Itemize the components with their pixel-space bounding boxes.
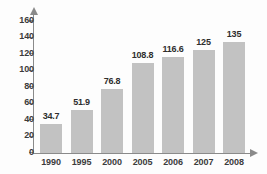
y-axis-tick-label: 80 (0, 81, 34, 91)
bar-value-label: 51.9 (62, 97, 102, 107)
bar-value-label: 76.8 (92, 76, 132, 86)
plot-area: 020406080100120140160 199019952000200520… (0, 0, 267, 174)
x-axis-tick-label: 1990 (34, 157, 68, 167)
y-axis-tick-label: 100 (0, 64, 34, 74)
y-axis-tick-label: 60 (0, 97, 34, 107)
y-axis-tick-label: 120 (0, 48, 34, 58)
y-axis-tick-label: 140 (0, 31, 34, 41)
bar (162, 57, 184, 153)
x-axis-tick-label: 2008 (217, 157, 251, 167)
bar (71, 110, 93, 153)
bar-value-label: 34.7 (31, 111, 71, 121)
x-axis-tick-label: 1995 (65, 157, 99, 167)
y-axis-arrow-icon (30, 7, 38, 15)
x-axis-tick-label: 2005 (126, 157, 160, 167)
y-axis-tick-label: 20 (0, 130, 34, 140)
bar-chart: 020406080100120140160 199019952000200520… (0, 0, 267, 174)
bar-value-label: 135 (214, 29, 254, 39)
y-axis-tick-label: 40 (0, 114, 34, 124)
x-axis-arrow-icon (250, 149, 258, 157)
bar (101, 89, 123, 152)
bar (223, 42, 245, 153)
bar (132, 63, 154, 152)
x-axis-line (33, 153, 251, 154)
y-axis-tick-label: 0 (0, 147, 34, 157)
bar (193, 50, 215, 153)
x-axis-tick-label: 2000 (95, 157, 129, 167)
x-axis-tick-label: 2006 (156, 157, 190, 167)
x-axis-tick-label: 2007 (187, 157, 221, 167)
y-axis-tick-label: 160 (0, 15, 34, 25)
bar (40, 124, 62, 153)
